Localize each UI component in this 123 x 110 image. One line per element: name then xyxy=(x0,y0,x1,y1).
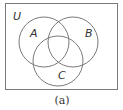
venn-diagram: U A B C (a) xyxy=(0,0,123,110)
set-b-circle xyxy=(48,17,98,67)
figure-caption: (a) xyxy=(54,94,69,107)
set-a-label: A xyxy=(29,27,38,40)
universe-label: U xyxy=(13,10,21,23)
set-b-label: B xyxy=(85,27,93,40)
set-c-label: C xyxy=(58,69,66,82)
set-a-circle xyxy=(19,17,69,67)
